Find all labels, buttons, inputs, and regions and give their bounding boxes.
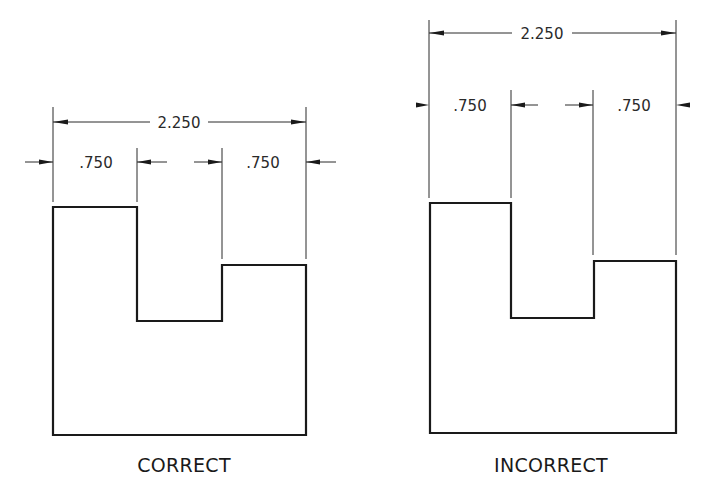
arrowhead-icon: [676, 103, 690, 108]
arrowhead-icon: [208, 160, 222, 165]
caption-correct: CORRECT: [137, 454, 231, 476]
arrowhead-icon: [39, 160, 53, 165]
arrowhead-icon: [661, 31, 676, 36]
arrowhead-icon: [579, 103, 593, 108]
overall-dimension-label: 2.250: [521, 25, 564, 43]
dimensioning-diagram: 2.250 .750 .750 CORRECT: [0, 0, 708, 498]
overall-dimension: 2.250: [429, 25, 676, 43]
arrowhead-icon: [429, 31, 444, 36]
part-outline: [53, 207, 306, 435]
arrowhead-icon: [53, 120, 68, 125]
left-dimension: .750: [25, 154, 167, 172]
overall-dimension-label: 2.250: [158, 114, 201, 132]
right-dimension-label: .750: [617, 97, 650, 115]
arrowhead-icon: [416, 103, 429, 108]
overall-dimension: 2.250: [53, 114, 306, 132]
part-outline: [430, 203, 676, 433]
right-dimension: .750: [565, 97, 690, 115]
right-dimension-label: .750: [246, 154, 279, 172]
left-dimension-label: .750: [453, 97, 486, 115]
left-dimension-label: .750: [79, 154, 112, 172]
left-dimension: .750: [416, 97, 538, 115]
arrowhead-icon: [137, 160, 151, 165]
panel-incorrect: 2.250 .750 .750 INCORRECT: [416, 20, 690, 476]
right-dimension: .750: [194, 154, 336, 172]
caption-incorrect: INCORRECT: [494, 454, 608, 476]
arrowhead-icon: [291, 120, 306, 125]
arrowhead-icon: [306, 160, 320, 165]
panel-correct: 2.250 .750 .750 CORRECT: [25, 107, 336, 476]
arrowhead-icon: [511, 103, 525, 108]
